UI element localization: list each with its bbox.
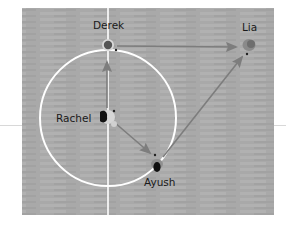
field-svg [0,0,286,226]
label-lia: Lia [242,21,257,33]
label-ayush: Ayush [144,176,175,188]
pass-derek-lia [117,46,236,47]
label-rachel: Rachel [56,112,91,124]
passing-diagram: Derek Lia Rachel Ayush [0,0,286,226]
label-derek: Derek [93,19,124,31]
